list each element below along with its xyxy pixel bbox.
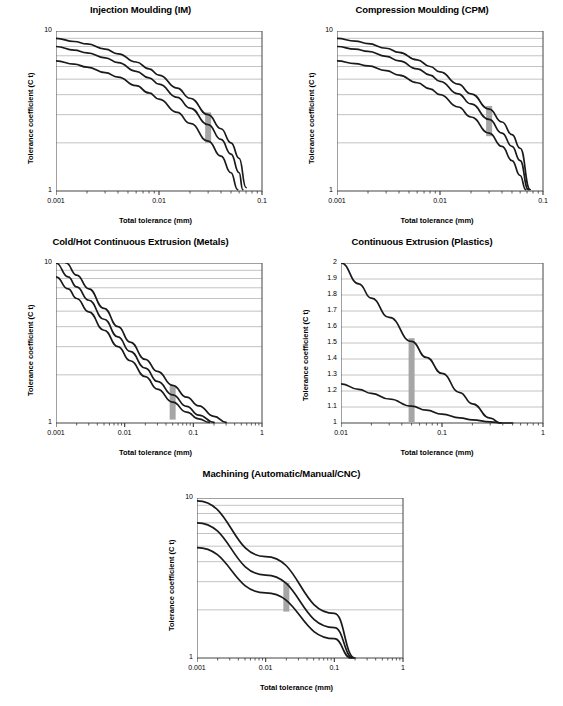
y-tick-label: 1.1 — [315, 402, 337, 409]
y-axis-label: Tolerance coefficient (C t) — [26, 304, 35, 396]
x-tick-label: 0.01 — [246, 664, 286, 671]
y-axis-label: Tolerance coefficient (C t) — [307, 72, 316, 164]
x-tick-label: 0.01 — [139, 197, 179, 204]
y-tick-label: 1.2 — [315, 386, 337, 393]
x-tick-label: 0.1 — [314, 664, 354, 671]
plot-area: 0.0010.010.11101 — [197, 498, 405, 684]
plot-area: 0.0010.010.11101 — [56, 263, 264, 449]
x-tick-label: 0.01 — [321, 429, 361, 436]
y-axis-label: Tolerance coefficient (C t) — [301, 309, 310, 401]
plot-area: 0.010.1121.91.81.71.61.51.41.31.21.11 — [341, 263, 545, 449]
x-tick-label: 1 — [523, 429, 563, 436]
chart-panel-continuous-extrusion-plastics: Continuous Extrusion (Plastics) Toleranc… — [281, 236, 563, 467]
plot-area: 0.0010.010.1101 — [56, 31, 264, 217]
x-tick-label: 0.1 — [523, 197, 563, 204]
y-tick-label: 1.5 — [315, 338, 337, 345]
x-tick-label: 0.001 — [177, 664, 217, 671]
y-tick-label: 1.8 — [315, 290, 337, 297]
y-tick-label: 1 — [311, 186, 333, 193]
y-tick-label: 1.6 — [315, 322, 337, 329]
chart-title: Machining (Automatic/Manual/CNC) — [141, 468, 422, 479]
y-tick-label: 10 — [311, 26, 333, 33]
y-axis-label: Tolerance coefficient (C t) — [167, 539, 176, 631]
chart-title: Compression Moulding (CPM) — [281, 4, 563, 15]
chart-title: Cold/Hot Continuous Extrusion (Metals) — [0, 236, 281, 247]
x-tick-label: 0.1 — [242, 197, 282, 204]
x-tick-label: 0.1 — [422, 429, 462, 436]
x-axis-label: Total tolerance (mm) — [40, 448, 271, 457]
figure-grid: Injection Moulding (IM) Tolerance coeffi… — [0, 0, 563, 706]
x-tick-label: 0.001 — [36, 429, 76, 436]
y-tick-label: 1.3 — [315, 370, 337, 377]
x-tick-label: 0.1 — [173, 429, 213, 436]
y-tick-label: 1.7 — [315, 306, 337, 313]
y-tick-label: 10 — [171, 493, 193, 500]
chart-panel-compression-moulding: Compression Moulding (CPM) Tolerance coe… — [281, 4, 563, 235]
y-tick-label: 1 — [30, 186, 52, 193]
x-tick-label: 0.01 — [420, 197, 460, 204]
x-axis-label: Total tolerance (mm) — [321, 216, 553, 225]
x-axis-label: Total tolerance (mm) — [321, 448, 553, 457]
y-tick-label: 2 — [315, 258, 337, 265]
chart-panel-injection-moulding: Injection Moulding (IM) Tolerance coeffi… — [0, 4, 281, 235]
y-axis-label: Tolerance coefficient (C t) — [26, 72, 35, 164]
plot-area: 0.0010.010.1101 — [337, 31, 545, 217]
chart-panel-cold-hot-continuous-extrusion: Cold/Hot Continuous Extrusion (Metals) T… — [0, 236, 281, 467]
x-tick-label: 0.01 — [105, 429, 145, 436]
x-tick-label: 0.001 — [317, 197, 357, 204]
y-tick-label: 10 — [30, 26, 52, 33]
chart-title: Injection Moulding (IM) — [0, 4, 281, 15]
chart-panel-machining: Machining (Automatic/Manual/CNC) Toleran… — [141, 468, 422, 706]
y-tick-label: 1.4 — [315, 354, 337, 361]
y-tick-label: 1.9 — [315, 274, 337, 281]
x-tick-label: 0.001 — [36, 197, 76, 204]
chart-title: Continuous Extrusion (Plastics) — [281, 236, 563, 247]
x-tick-label: 1 — [383, 664, 423, 671]
x-axis-label: Total tolerance (mm) — [40, 216, 271, 225]
x-axis-label: Total tolerance (mm) — [181, 683, 412, 692]
y-tick-label: 10 — [30, 258, 52, 265]
y-tick-label: 1 — [315, 418, 337, 425]
y-tick-label: 1 — [30, 418, 52, 425]
x-tick-label: 1 — [242, 429, 282, 436]
y-tick-label: 1 — [171, 653, 193, 660]
